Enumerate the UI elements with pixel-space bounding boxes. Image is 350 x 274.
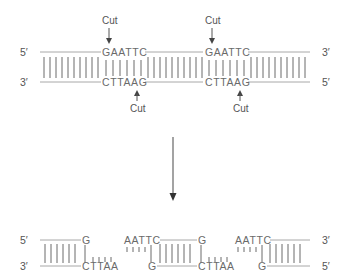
cut-label: Cut — [233, 103, 249, 114]
arrowhead-icon — [170, 193, 177, 201]
intact-bottom-3prime-label: 3′ — [20, 76, 28, 88]
site1-bottom-sequence: CTTAAG — [102, 76, 147, 88]
fragment1-bottom-end: CTTAA — [82, 260, 119, 272]
cut-label: Cut — [205, 15, 221, 26]
cut-arrow-site1-bottom: Cut — [130, 90, 146, 114]
cut-label: Cut — [102, 15, 118, 26]
cut-bottom-5prime-label: 5′ — [322, 260, 330, 272]
fragment2-top-end: G — [198, 234, 207, 246]
fragment2-top-start: AATTC — [124, 234, 161, 246]
intact-top-5prime-label: 5′ — [20, 46, 28, 58]
fragment2-bottom-start: G — [148, 260, 157, 272]
fragment2-bottom-end: CTTAA — [198, 260, 235, 272]
fragment-3: AATTC G — [235, 234, 310, 272]
cut-top-5prime-label: 5′ — [20, 234, 28, 246]
process-down-arrow — [170, 137, 177, 201]
site1-top-sequence: GAATTC — [102, 46, 147, 58]
site2-top-sequence: GAATTC — [205, 46, 250, 58]
fragment-1: G CTTAA — [40, 234, 119, 272]
cut-bottom-3prime-label: 3′ — [20, 260, 28, 272]
intact-base-pair-bars — [44, 57, 305, 78]
ecori-digest-diagram: 5′ 3′ 3′ 5′ GAATTC CTTAAG GAATTC CTTAAG — [0, 0, 350, 274]
cut-arrow-site1-top: Cut — [102, 15, 118, 44]
fragment1-top-end: G — [82, 234, 91, 246]
fragment-2: AATTC G G CTTAA — [124, 234, 235, 272]
arrowhead-icon — [106, 38, 112, 44]
intact-bottom-5prime-label: 5′ — [322, 76, 330, 88]
cut-arrow-site2-bottom: Cut — [233, 90, 249, 114]
cut-top-3prime-label: 3′ — [322, 234, 330, 246]
cut-arrow-site2-top: Cut — [205, 15, 221, 44]
site2-bottom-sequence: CTTAAG — [205, 76, 250, 88]
intact-dna: 5′ 3′ 3′ 5′ GAATTC CTTAAG GAATTC CTTAAG — [20, 15, 330, 114]
arrowhead-icon — [209, 38, 215, 44]
intact-top-3prime-label: 3′ — [322, 46, 330, 58]
cut-label: Cut — [130, 103, 146, 114]
cut-dna: 5′ 3′ 3′ 5′ G CTTAA AATTC G — [20, 234, 330, 272]
fragment3-top-start: AATTC — [235, 234, 272, 246]
